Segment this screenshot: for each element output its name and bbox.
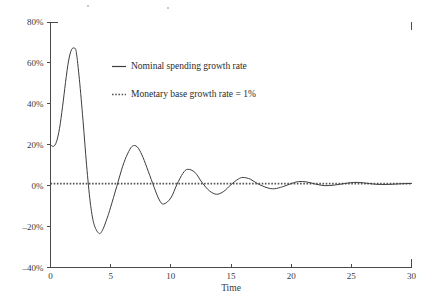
x-tick-label: 30 (407, 271, 417, 281)
y-tick-label: 0% (32, 181, 45, 191)
legend-label-monetary-base: Monetary base growth rate = 1% (131, 89, 256, 99)
x-axis-ticks: 051015202530 (48, 264, 416, 281)
x-axis-title: Time (221, 283, 241, 293)
x-tick-label: 5 (108, 271, 113, 281)
chart-canvas: –40%–20%0%20%40%60%80% 051015202530 Nomi… (0, 0, 432, 308)
y-tick-label: 20% (27, 140, 44, 150)
y-axis-ticks: –40%–20%0%20%40%60%80% (22, 17, 51, 273)
x-tick-label: 0 (48, 271, 53, 281)
scan-speck (167, 7, 169, 9)
y-tick-label: –40% (22, 263, 45, 273)
y-tick-label: 80% (27, 17, 44, 27)
x-tick-label: 20 (287, 271, 297, 281)
chart-figure: –40%–20%0%20%40%60%80% 051015202530 Nomi… (0, 0, 432, 308)
plot-axes (50, 22, 412, 268)
chart-legend: Nominal spending growth rate Monetary ba… (112, 61, 256, 99)
series-nominal-spending-line (51, 48, 412, 234)
y-tick-label: 60% (27, 58, 44, 68)
x-tick-label: 10 (166, 271, 176, 281)
scan-speck (87, 5, 89, 7)
y-tick-label: 40% (27, 99, 44, 109)
x-tick-label: 15 (227, 271, 237, 281)
x-tick-label: 25 (347, 271, 357, 281)
y-tick-label: –20% (22, 222, 45, 232)
legend-label-nominal-spending: Nominal spending growth rate (131, 61, 247, 71)
